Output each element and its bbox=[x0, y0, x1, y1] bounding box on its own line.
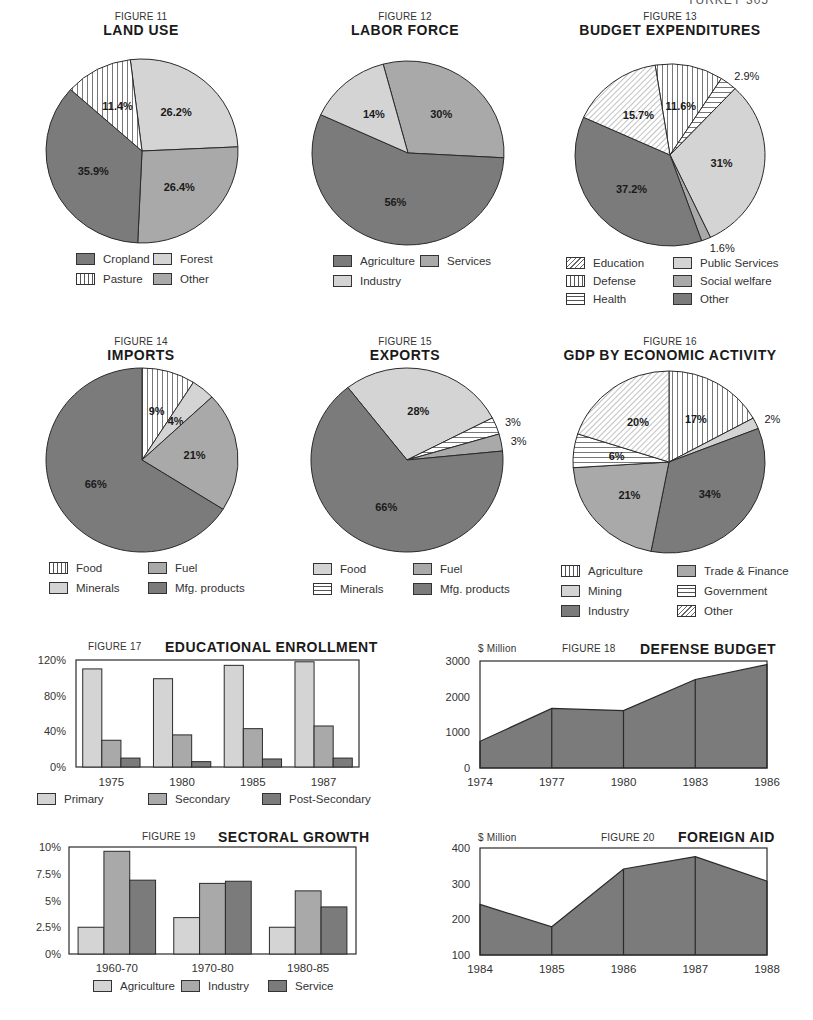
x-tick-label: 1987 bbox=[682, 963, 708, 975]
y-tick-label: 300 bbox=[452, 878, 470, 890]
x-tick-label: 1985 bbox=[539, 963, 565, 975]
y-tick-label: 400 bbox=[452, 842, 470, 854]
x-tick-label: 1984 bbox=[467, 963, 493, 975]
x-tick-label: 1988 bbox=[754, 963, 780, 975]
y-tick-label: 100 bbox=[452, 949, 470, 961]
x-tick-label: 1986 bbox=[611, 963, 637, 975]
foreign-aid-area-chart: 10020030040019841985198619871988 bbox=[0, 0, 813, 1020]
y-tick-label: 200 bbox=[452, 913, 470, 925]
